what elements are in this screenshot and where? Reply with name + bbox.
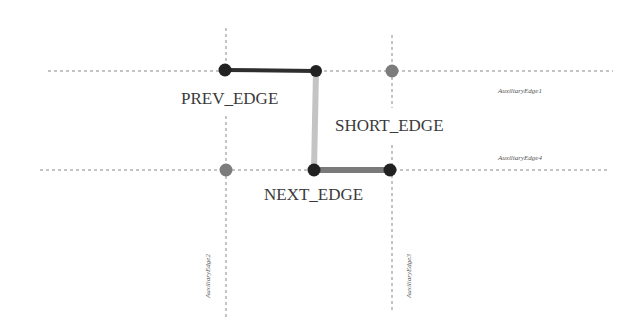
prev-edge-label: PREV_EDGE (181, 89, 278, 108)
node-aux-bottom-left (220, 164, 233, 177)
aux-edge-3-label: AuxiliaryEdge3 (405, 254, 413, 299)
node-prev-start (219, 64, 232, 77)
node-aux-top-right (386, 65, 399, 78)
node-next-end (384, 164, 397, 177)
edge-diagram: PREV_EDGE SHORT_EDGE NEXT_EDGE Auxiliary… (0, 0, 642, 333)
short-edge-label: SHORT_EDGE (335, 116, 444, 135)
aux-edge-1-label: AuxiliaryEdge1 (497, 87, 542, 95)
short-edge-line (314, 71, 316, 170)
aux-edge-4-label: AuxiliaryEdge4 (497, 154, 542, 162)
node-next-start (308, 164, 321, 177)
node-prev-end (310, 65, 322, 77)
next-edge-label: NEXT_EDGE (264, 185, 363, 204)
prev-edge-line (225, 70, 316, 71)
aux-edge-2-label: AuxiliaryEdge2 (204, 254, 212, 299)
